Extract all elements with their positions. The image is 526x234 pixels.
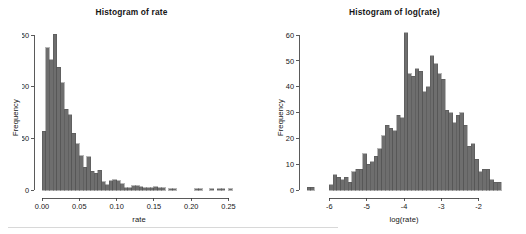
histogram-bar: [400, 118, 404, 190]
histogram-bar: [124, 188, 128, 190]
y-axis-label-right: Frequency: [276, 99, 285, 136]
histogram-bar: [68, 115, 72, 190]
histogram-bar: [359, 169, 363, 190]
histogram-bar: [94, 173, 98, 190]
y-tick-label: 20: [286, 134, 294, 143]
histogram-bar: [411, 76, 415, 190]
x-tick-label: -5: [363, 202, 370, 211]
x-tick-label: 0.10: [109, 202, 123, 211]
histogram-bar: [430, 56, 434, 190]
y-tick-label: 50: [22, 134, 29, 143]
histogram-bar: [445, 110, 449, 190]
plot-area-rate: 0501001500.000.050.100.150.200.25: [22, 19, 255, 234]
histogram-bar: [169, 189, 173, 190]
histogram-bar: [419, 71, 423, 190]
histogram-bar: [464, 125, 468, 190]
histogram-bar: [210, 189, 214, 190]
y-tick-label: 30: [286, 108, 294, 117]
x-tick-label: 0.15: [147, 202, 161, 211]
histogram-bar: [98, 170, 102, 190]
histogram-bar: [128, 188, 132, 190]
histogram-bar: [337, 177, 341, 190]
histogram-bar: [352, 172, 356, 190]
histogram-bar: [154, 187, 158, 190]
x-tick-label: 0.20: [184, 202, 198, 211]
histogram-bar: [173, 189, 177, 190]
histogram-bar: [460, 113, 464, 190]
histogram-bar: [83, 167, 87, 190]
histogram-bar: [42, 131, 46, 190]
histogram-bar: [385, 125, 389, 190]
chart-panel-log-rate: Histogram of log(rate) Frequency 0102030…: [263, 0, 526, 234]
histogram-bar: [87, 157, 91, 190]
histogram-bar: [441, 79, 445, 190]
histogram-bar: [61, 83, 65, 190]
bottom-divider: [8, 227, 338, 228]
histogram-bar: [341, 180, 345, 190]
x-tick-label: -2: [475, 202, 482, 211]
histogram-bar: [348, 182, 352, 190]
y-tick-label: 100: [22, 82, 29, 91]
histogram-bar: [456, 115, 460, 190]
x-axis-label-right: log(rate): [344, 215, 464, 224]
histogram-bar: [102, 182, 106, 190]
y-tick-label: 60: [286, 31, 294, 40]
histogram-bar: [64, 109, 68, 190]
x-tick-label: -6: [326, 202, 333, 211]
histogram-bar: [404, 33, 408, 190]
x-tick-label: 0.00: [35, 202, 49, 211]
histogram-bar: [229, 189, 233, 190]
histogram-bar: [333, 175, 337, 190]
histogram-bar: [46, 48, 50, 190]
chart-panel-rate: Histogram of rate Frequency 0501001500.0…: [0, 0, 263, 234]
y-tick-label: 0: [290, 186, 294, 195]
histogram-bar: [139, 187, 143, 190]
histogram-bar: [486, 169, 490, 190]
x-tick-label: 0.05: [72, 202, 86, 211]
histogram-bar: [109, 181, 113, 190]
histogram-bar: [117, 181, 121, 190]
figure-canvas: Histogram of rate Frequency 0501001500.0…: [0, 0, 526, 234]
histogram-bar: [434, 64, 438, 190]
histogram-bar: [158, 188, 162, 190]
chart-title-rate: Histogram of rate: [0, 7, 263, 17]
histogram-log-rate-svg: 0102030405060-6-5-4-3-2: [285, 19, 518, 234]
histogram-bar: [449, 113, 453, 190]
histogram-bar: [105, 185, 109, 190]
histogram-bar: [79, 156, 83, 190]
bars-group: [42, 34, 232, 190]
histogram-bar: [199, 189, 203, 190]
histogram-bar: [143, 188, 147, 190]
y-tick-label: 10: [286, 160, 294, 169]
histogram-bar: [453, 123, 457, 190]
y-axis-label-left: Frequency: [11, 99, 20, 136]
histogram-bar: [329, 185, 333, 190]
histogram-bar: [150, 188, 154, 190]
histogram-bar: [76, 144, 80, 190]
histogram-bar: [146, 188, 150, 190]
histogram-bar: [482, 169, 486, 190]
histogram-bar: [161, 188, 165, 190]
histogram-bar: [490, 180, 494, 190]
histogram-bar: [135, 186, 139, 190]
histogram-bar: [356, 169, 360, 190]
histogram-bar: [367, 164, 371, 190]
histogram-bar: [370, 162, 374, 190]
histogram-bar: [311, 187, 315, 190]
y-tick-label: 40: [286, 82, 294, 91]
plot-area-log-rate: 0102030405060-6-5-4-3-2: [285, 19, 518, 234]
x-tick-label: 0.25: [221, 202, 235, 211]
y-tick-label: 50: [286, 57, 294, 66]
histogram-bar: [471, 144, 475, 190]
histogram-bar: [57, 67, 61, 190]
histogram-bar: [389, 128, 393, 190]
histogram-bar: [378, 149, 382, 190]
histogram-bar: [132, 186, 136, 190]
histogram-bar: [479, 172, 483, 190]
histogram-bar: [53, 34, 57, 190]
histogram-bar: [307, 187, 311, 190]
histogram-bar: [120, 184, 124, 190]
histogram-bar: [423, 92, 427, 190]
histogram-bar: [426, 87, 430, 190]
histogram-bar: [497, 182, 501, 190]
